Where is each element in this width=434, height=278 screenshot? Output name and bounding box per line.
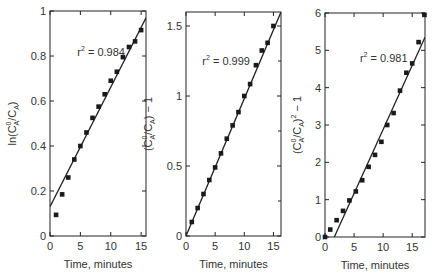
data-point-marker: [60, 192, 65, 197]
y-tick-label: 0.5: [167, 160, 182, 172]
data-point-marker: [248, 82, 253, 87]
panel-middle: 05101500.511.5r2 = 0.999Time, minutes(C0…: [141, 12, 281, 270]
data-point-marker: [379, 140, 384, 145]
data-point-marker: [219, 151, 224, 156]
data-point-marker: [265, 41, 270, 46]
y-tick-label: 0.6: [31, 95, 46, 107]
data-point-marker: [323, 235, 328, 240]
data-point-marker: [347, 198, 352, 203]
data-point-marker: [385, 123, 390, 128]
r-squared-annotation: r2 = 0.999: [202, 54, 250, 67]
y-tick-label: 0.8: [31, 50, 46, 62]
figure-canvas: 05101500.20.40.60.81r2 = 0.984Time, minu…: [0, 0, 434, 278]
x-tick-label: 0: [183, 240, 189, 252]
y-tick-label: 0.4: [31, 140, 46, 152]
data-point-marker: [139, 28, 144, 33]
x-tick-label: 5: [351, 241, 357, 253]
data-point-marker: [96, 104, 101, 109]
regression-line: [334, 37, 425, 237]
x-tick-label: 15: [267, 240, 279, 252]
data-point-marker: [102, 92, 107, 97]
data-point-marker: [360, 178, 365, 183]
data-point-marker: [416, 40, 421, 45]
y-tick-label: 1: [176, 90, 182, 102]
x-tick-label: 0: [47, 240, 53, 252]
r-squared-annotation: r2 = 0.984: [77, 45, 125, 58]
y-tick-label: 2: [315, 156, 321, 168]
r-squared-annotation: r2 = 0.981: [360, 51, 408, 64]
data-point-marker: [224, 136, 229, 141]
y-axis-label: (C0A/CA) − 1: [141, 97, 156, 151]
data-point-marker: [115, 69, 120, 74]
data-point-marker: [190, 220, 195, 225]
data-point-marker: [271, 24, 276, 29]
data-point-marker: [422, 13, 427, 18]
data-point-marker: [54, 213, 59, 218]
data-point-marker: [404, 70, 409, 75]
data-point-marker: [230, 123, 235, 128]
data-point-marker: [328, 227, 333, 232]
y-tick-label: 0: [176, 230, 182, 242]
data-point-marker: [242, 94, 247, 99]
x-tick-label: 5: [212, 240, 218, 252]
y-tick-label: 5: [315, 44, 321, 56]
x-tick-label: 10: [105, 240, 117, 252]
plot-frame: [325, 13, 425, 237]
data-point-marker: [201, 192, 206, 197]
data-point-marker: [254, 63, 259, 68]
x-axis-label: Time, minutes: [64, 258, 133, 270]
y-tick-label: 3: [315, 119, 321, 131]
y-tick-label: 0.2: [31, 185, 46, 197]
y-axis-label: ln(C0A/CA): [5, 101, 20, 145]
data-point-marker: [373, 153, 378, 158]
y-axis-label: (C0A/CA)2 − 1: [290, 96, 305, 154]
data-point-marker: [133, 39, 138, 44]
data-point-marker: [398, 88, 403, 93]
data-point-marker: [84, 130, 89, 135]
data-point-marker: [108, 78, 113, 83]
x-axis-label: Time, minutes: [341, 259, 410, 271]
data-point-marker: [213, 165, 218, 170]
data-point-marker: [127, 45, 132, 50]
x-tick-label: 10: [377, 241, 389, 253]
data-point-marker: [236, 110, 241, 115]
y-tick-label: 6: [315, 7, 321, 19]
kinetics-figure: 05101500.20.40.60.81r2 = 0.984Time, minu…: [0, 0, 434, 278]
y-tick-label: 4: [315, 82, 321, 94]
data-point-marker: [354, 189, 359, 194]
y-tick-label: 1: [40, 5, 46, 17]
data-point-marker: [207, 178, 212, 183]
data-point-marker: [72, 157, 77, 162]
y-tick-label: 1.5: [167, 20, 182, 32]
panel-left: 05101500.20.40.60.81r2 = 0.984Time, minu…: [5, 5, 147, 270]
x-tick-label: 15: [135, 240, 147, 252]
data-point-marker: [195, 206, 200, 211]
y-tick-label: 0: [315, 231, 321, 243]
data-point-marker: [366, 165, 371, 170]
x-tick-label: 0: [322, 241, 328, 253]
x-axis-label: Time, minutes: [199, 258, 268, 270]
data-point-marker: [90, 116, 95, 121]
x-tick-label: 15: [406, 241, 418, 253]
data-point-marker: [334, 218, 339, 223]
x-tick-label: 5: [77, 240, 83, 252]
data-point-marker: [78, 144, 83, 149]
data-point-marker: [410, 61, 415, 66]
data-point-marker: [341, 209, 346, 214]
y-tick-label: 0: [40, 230, 46, 242]
data-point-marker: [259, 48, 264, 53]
panel-right: 0510150123456r2 = 0.981Time, minutes(C0A…: [290, 7, 427, 271]
data-point-marker: [391, 111, 396, 116]
data-point-marker: [66, 175, 71, 180]
x-tick-label: 10: [238, 240, 250, 252]
y-tick-label: 1: [315, 194, 321, 206]
